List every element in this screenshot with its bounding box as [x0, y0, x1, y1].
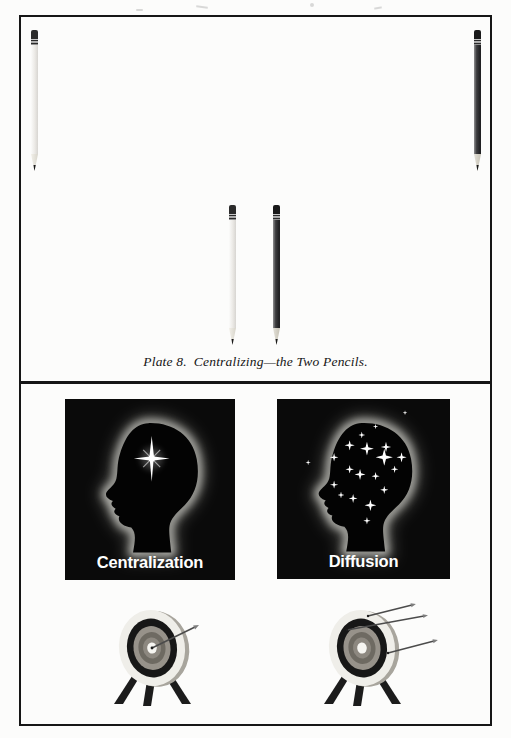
pencil-lead [476, 165, 479, 171]
pencil-eraser [273, 205, 280, 214]
target-scattered-arrows [300, 600, 450, 708]
pencil-tip [229, 328, 236, 345]
pencil-ferrule [474, 39, 481, 45]
pencil-light-top-left [31, 30, 38, 171]
pencil-tip [31, 154, 38, 171]
pencil-tip [273, 328, 280, 345]
scan-artifact [310, 3, 314, 7]
arrow-icon [367, 603, 416, 617]
diffusion-label: Diffusion [277, 552, 450, 571]
pencil-tip [474, 154, 481, 171]
pencil-body [273, 220, 280, 328]
pencil-ferrule [229, 214, 236, 220]
pencil-eraser [474, 30, 481, 39]
pencil-light-center [229, 205, 236, 345]
pencil-lead [231, 339, 234, 345]
target-single-arrow [98, 600, 233, 708]
target-board [114, 605, 194, 691]
pencil-eraser [31, 30, 38, 39]
pencil-dark-top-right [474, 30, 481, 171]
concept-card-diffusion: Diffusion [277, 399, 450, 579]
pencil-body [229, 220, 236, 328]
target-board [324, 605, 404, 691]
plate-caption: Plate 8. Centralizing—the Two Pencils. [19, 354, 492, 370]
pencil-ferrule [31, 39, 38, 45]
pencil-body [31, 45, 38, 154]
concept-card-centralization: Centralization [65, 399, 235, 580]
scan-artifact [374, 6, 382, 9]
pencil-eraser [229, 205, 236, 214]
book-page: Plate 8. Centralizing—the Two Pencils. C… [0, 0, 511, 738]
pencil-ferrule [273, 214, 280, 220]
scan-artifact [196, 5, 208, 9]
pencil-lead [33, 165, 36, 171]
scan-artifact [136, 9, 143, 11]
pencil-dark-center [273, 205, 280, 345]
centralization-label: Centralization [65, 553, 235, 572]
pencil-lead [275, 339, 278, 345]
panel-divider-line [19, 381, 492, 384]
pencil-body [474, 45, 481, 154]
